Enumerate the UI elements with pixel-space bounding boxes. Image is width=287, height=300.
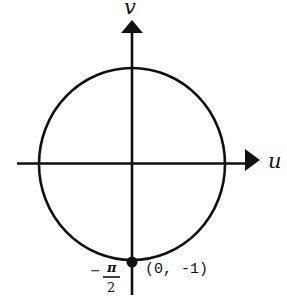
angle-numerator: π — [106, 260, 117, 275]
angle-sign: − — [90, 263, 101, 278]
angle-label: − π 2 — [90, 260, 120, 295]
u-axis: u — [17, 149, 282, 173]
v-axis-arrow-icon — [121, 20, 143, 33]
u-axis-arrow-icon — [245, 149, 260, 171]
point-coordinates-label: (0, -1) — [145, 261, 208, 278]
unit-circle-diagram: u v (0, -1) − π 2 — [0, 0, 287, 300]
marked-point-dot — [127, 257, 138, 268]
v-axis-label: v — [124, 0, 136, 19]
u-axis-label: u — [268, 149, 282, 173]
v-axis: v — [121, 0, 143, 295]
angle-denominator: 2 — [107, 280, 115, 295]
